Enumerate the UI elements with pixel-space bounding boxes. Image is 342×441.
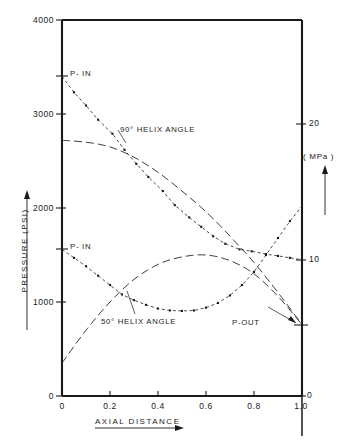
x-tick-label-0-8: 0.8 (242, 401, 266, 411)
x-tick-label-0-2: 0.2 (98, 401, 122, 411)
series-50deg-measured (62, 206, 302, 312)
y-tick-label-3000: 3000 (22, 109, 54, 119)
x-tick-label-0-4: 0.4 (146, 401, 170, 411)
annotation-p-in-upper: P- IN (70, 69, 91, 78)
y2-axis-arrow (322, 165, 328, 215)
plot-frame (62, 20, 302, 436)
y-tick-label-4000: 4000 (22, 15, 54, 25)
y2-tick-label-10: 10 (309, 254, 319, 264)
x-axis-title: AXIAL DISTANCE (95, 417, 180, 426)
annotation-leaders (118, 130, 296, 323)
chart-figure: 4000 3000 2000 1000 0 20 10 0 0 0.2 0.4 … (0, 0, 342, 441)
y2-tick-label-20: 20 (309, 118, 319, 128)
series-90deg-predicted (62, 140, 302, 324)
annotation-helix-90: 90° HELIX ANGLE (120, 125, 195, 134)
x-tick-label-1-0: 1.0 (289, 401, 313, 411)
x-tick-label-0-6: 0.6 (194, 401, 218, 411)
series-90deg-measured (62, 76, 302, 259)
y2-tick-label-0: 0 (307, 390, 312, 400)
y2-axis-title: ( MPa ) (303, 152, 334, 161)
series-50deg-predicted (62, 255, 302, 363)
annotation-helix-50: 50° HELIX ANGLE (101, 317, 176, 326)
y-axis-title: PRESSURE (PSI) (20, 181, 29, 321)
y-tick-label-0: 0 (22, 391, 54, 401)
annotation-p-out: P-OUT (232, 318, 260, 327)
chart-canvas (0, 0, 342, 441)
annotation-p-in-lower: P- IN (70, 242, 91, 251)
series-90deg-measured-markers (73, 91, 291, 259)
x-tick-label-0: 0 (52, 401, 72, 411)
